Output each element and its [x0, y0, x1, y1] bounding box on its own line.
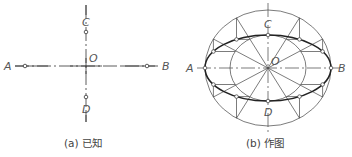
- point-d: [84, 95, 88, 99]
- label-o-panel-a: O: [89, 52, 98, 65]
- caption-panel-a: (a) 已知: [64, 135, 102, 150]
- label-c-panel-b: C: [264, 18, 272, 31]
- point-b: [145, 64, 149, 68]
- label-b-panel-a: B: [162, 60, 170, 73]
- point-c: [84, 30, 88, 34]
- label-a-panel-b: A: [185, 62, 194, 75]
- point-a: [23, 64, 27, 68]
- label-d-panel-b: D: [264, 106, 272, 119]
- label-c-panel-a: C: [82, 16, 90, 29]
- label-o-panel-b: O: [271, 55, 280, 68]
- label-d-panel-a: D: [82, 103, 90, 116]
- label-a-panel-a: A: [3, 60, 12, 73]
- diagram-canvas: A B C D O: [0, 0, 352, 157]
- label-b-panel-b: B: [338, 62, 346, 75]
- caption-panel-b: (b) 作图: [246, 135, 284, 150]
